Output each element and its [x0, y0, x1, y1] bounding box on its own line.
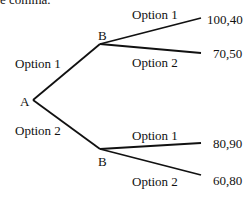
edge-label-b1-option2: Option 2: [132, 55, 178, 70]
game-tree-diagram: e comma. A B B Option 1 Option 2 Option …: [0, 0, 250, 204]
node-a-label: A: [20, 94, 30, 109]
node-b1-label: B: [98, 28, 107, 43]
payoff-b2-option2: 60,80: [213, 173, 242, 188]
game-tree-svg: e comma. A B B Option 1 Option 2 Option …: [0, 0, 250, 204]
payoff-b1-option2: 70,50: [213, 46, 242, 61]
edge-b2-option1: [100, 143, 201, 149]
edge-label-a-option2: Option 2: [15, 123, 61, 138]
payoff-b2-option1: 80,90: [213, 136, 242, 151]
edge-label-b1-option1: Option 1: [132, 7, 178, 22]
edge-label-b2-option2: Option 2: [132, 174, 178, 189]
edge-b1-option2: [100, 44, 201, 53]
payoff-b1-option1: 100,40: [207, 12, 243, 27]
edge-b2-option2: [100, 149, 201, 175]
edge-label-a-option1: Option 1: [15, 56, 61, 71]
edge-label-b2-option1: Option 1: [132, 128, 178, 143]
caption-fragment: e comma.: [0, 0, 51, 7]
edge-a-to-b1: [33, 44, 100, 100]
node-b2-label: B: [98, 154, 107, 169]
